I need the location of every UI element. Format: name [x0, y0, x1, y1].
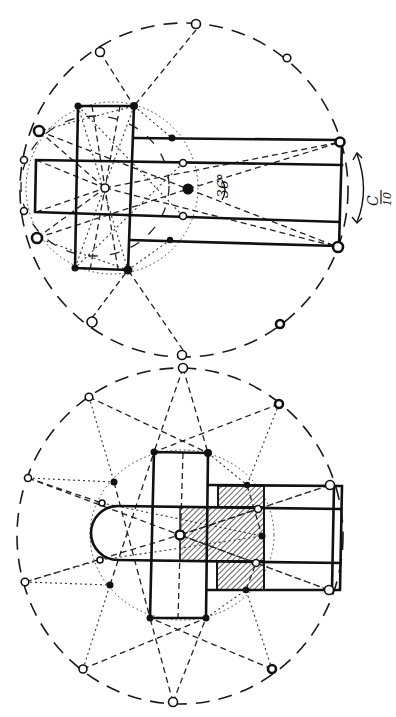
point-open [32, 233, 42, 243]
point-open [34, 126, 44, 136]
upper-inner-circle [26, 102, 198, 274]
point-solid [204, 449, 212, 457]
lower-plan [17, 364, 343, 707]
fraction-numerator: C [365, 195, 381, 206]
point-open [21, 208, 28, 215]
lower-east-front [332, 486, 334, 590]
point-open [97, 557, 103, 563]
point-open [21, 578, 29, 586]
point-open [96, 48, 105, 57]
point-solid-center [183, 184, 194, 195]
point-solid [75, 103, 82, 110]
point-open [276, 320, 284, 328]
point-open [169, 698, 178, 707]
point-open [85, 393, 93, 401]
point-open [255, 506, 262, 513]
upper-aisle-north [134, 138, 340, 140]
point-open [253, 560, 260, 567]
point-open [25, 475, 32, 482]
upper-plan: 36° C 10 [20, 20, 394, 360]
point-solid [244, 482, 250, 488]
fraction-arrow-head-bottom [352, 217, 362, 223]
point-open [192, 20, 201, 29]
point-solid [151, 449, 158, 456]
point-solid [259, 533, 266, 540]
point-open-center [101, 184, 109, 192]
lower-hatched-areas [180, 486, 264, 590]
point-open [179, 364, 188, 373]
point-open [326, 481, 335, 490]
point-solid [203, 615, 210, 622]
upper-west-front [339, 142, 342, 247]
point-solid [107, 582, 114, 589]
point-open [275, 400, 283, 408]
hatch-crossing [180, 507, 264, 561]
point-solid [130, 102, 138, 110]
point-solid [147, 615, 154, 622]
fraction-denominator: 10 [381, 192, 394, 206]
angle-label: 36° [215, 173, 231, 198]
diagram-canvas: 36° C 10 [0, 0, 396, 717]
point-open [180, 213, 187, 220]
point-solid [124, 266, 133, 275]
point-solid [72, 265, 79, 272]
point-open [178, 351, 187, 360]
point-solid [167, 237, 173, 243]
point-open [283, 54, 291, 62]
upper-aisle-south [130, 240, 337, 246]
point-open [325, 586, 334, 595]
point-open-center [176, 531, 185, 540]
point-open [333, 242, 343, 252]
fraction-arrow [357, 154, 364, 222]
point-solid [111, 479, 118, 486]
hatch-north [218, 486, 264, 507]
lower-points [21, 364, 334, 707]
point-solid [243, 587, 249, 593]
point-open [79, 665, 87, 673]
point-open [99, 500, 105, 506]
point-open [268, 665, 276, 673]
point-open [336, 138, 345, 147]
point-open [87, 317, 97, 327]
point-open [21, 157, 28, 164]
point-open [180, 160, 187, 167]
point-solid [169, 135, 176, 142]
